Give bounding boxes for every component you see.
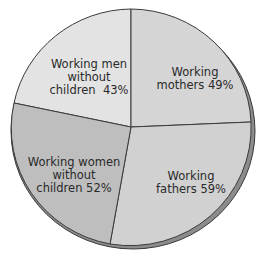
label-working-men-without-children: Working men without children 43% — [36, 58, 142, 97]
label-working-fathers: Working fathers 59% — [146, 170, 236, 196]
pie-chart — [0, 0, 266, 255]
label-working-women-without-children: Working women without children 52% — [20, 156, 128, 195]
label-working-mothers: Working mothers 49% — [150, 66, 240, 92]
